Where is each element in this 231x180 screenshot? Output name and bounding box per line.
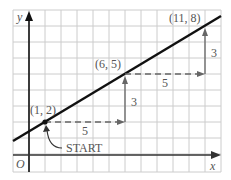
x-axis (13, 151, 221, 159)
run-arrow-1 (117, 119, 125, 125)
run-label-2: 5 (162, 76, 168, 90)
rise-arrow-1 (122, 76, 128, 84)
rise-label-1: 3 (131, 95, 137, 109)
slope-diagram: y x O 5 3 5 3 (1, 2) (6, 5) (11, 8) STAR… (0, 0, 231, 180)
y-axis-label: y (16, 10, 23, 24)
start-pointer-arrow (47, 130, 62, 148)
origin-label: O (16, 157, 25, 171)
point-label-3: (11, 8) (169, 11, 201, 25)
point-label-2: (6, 5) (95, 57, 121, 71)
start-arrowhead (43, 125, 50, 132)
point-start (42, 119, 47, 124)
run-label-1: 5 (82, 124, 88, 138)
start-label: START (66, 141, 103, 155)
rise-label-2: 3 (211, 46, 217, 60)
run-arrow-2 (197, 71, 205, 77)
rise-arrow-2 (202, 28, 208, 36)
y-axis (25, 11, 33, 172)
point-label-1: (1, 2) (30, 103, 56, 117)
x-axis-label: x (209, 159, 216, 173)
